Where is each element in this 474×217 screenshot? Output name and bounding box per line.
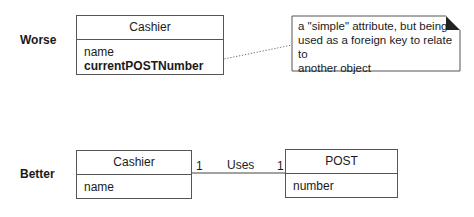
class-name: POST — [286, 150, 397, 174]
attribute-list: name currentPOSTNumber — [77, 40, 223, 73]
note: a "simple" attribute, but being used as … — [292, 16, 460, 71]
attribute-number: number — [293, 179, 397, 193]
attribute-name: name — [84, 180, 191, 194]
row-label-better: Better — [20, 167, 55, 181]
class-post: POST number — [285, 149, 398, 198]
class-cashier-worse: Cashier name currentPOSTNumber — [76, 15, 224, 75]
attribute-list: number — [286, 174, 397, 193]
multiplicity-left: 1 — [196, 159, 203, 173]
class-cashier-better: Cashier name — [76, 150, 192, 199]
multiplicity-right: 1 — [277, 159, 284, 173]
attribute-current-post-number: currentPOSTNumber — [84, 59, 223, 73]
note-line: another object — [298, 61, 458, 75]
row-label-worse: Worse — [20, 33, 56, 47]
note-line: used as a foreign key to relate to — [298, 33, 458, 61]
class-name: Cashier — [77, 16, 223, 40]
attribute-list: name — [77, 175, 191, 194]
attribute-name: name — [84, 45, 223, 59]
note-text: a "simple" attribute, but being used as … — [298, 19, 458, 75]
note-line: a "simple" attribute, but being — [298, 19, 458, 33]
association-name: Uses — [227, 158, 254, 172]
class-name: Cashier — [77, 151, 191, 175]
